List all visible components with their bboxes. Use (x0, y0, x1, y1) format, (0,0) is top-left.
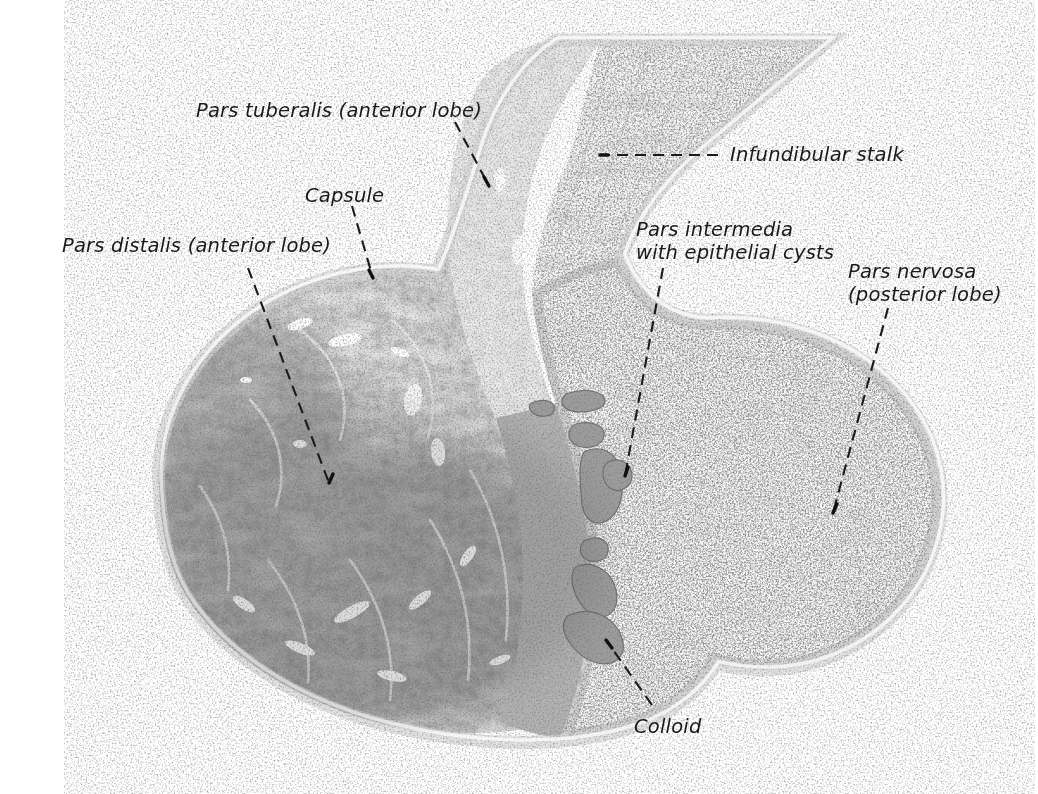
label-infundibular-stalk: Infundibular stalk (730, 143, 904, 166)
label-pars-nervosa-line2: (posterior lobe) (848, 283, 1002, 306)
label-pars-intermedia-line1: Pars intermedia (636, 218, 793, 241)
micrograph-illustration (0, 0, 1038, 794)
label-colloid: Colloid (634, 715, 702, 738)
figure-canvas: Pars tuberalis (anterior lobe) Infundibu… (0, 0, 1038, 794)
label-pars-tuberalis: Pars tuberalis (anterior lobe) (196, 99, 482, 122)
label-pars-intermedia: Pars intermediawith epithelial cysts (636, 218, 834, 264)
label-capsule: Capsule (305, 184, 384, 207)
label-pars-nervosa-line1: Pars nervosa (848, 260, 976, 283)
label-pars-nervosa: Pars nervosa(posterior lobe) (848, 260, 1002, 306)
label-pars-distalis: Pars distalis (anterior lobe) (62, 234, 331, 257)
specimen-section (120, 20, 1010, 770)
label-pars-intermedia-line2: with epithelial cysts (636, 241, 834, 264)
